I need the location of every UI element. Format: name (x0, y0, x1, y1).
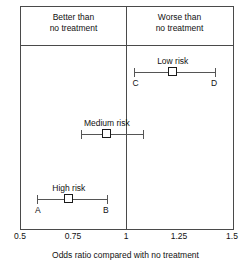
ci-endpoint-label-b: B (103, 205, 109, 215)
band-label-worse: Worse than no treatment (127, 12, 232, 34)
ci-line-medium-risk (81, 134, 142, 135)
x-tick-label-3: 1.25 (159, 231, 199, 241)
band-better-line2: no treatment (21, 23, 126, 34)
header-separator (20, 45, 234, 46)
study-row-medium-risk: Medium risk (0, 118, 251, 152)
ci-cap-medium-right (143, 130, 144, 139)
x-tick-label-2: 1 (106, 231, 146, 241)
ci-cap-high-right (107, 195, 108, 204)
ci-cap-low-left (134, 68, 135, 77)
ci-endpoint-label-a: A (35, 205, 41, 215)
x-tick-label-0: 0.5 (0, 231, 40, 241)
band-worse-line1: Worse than (127, 12, 232, 23)
ci-endpoint-label-c: C (132, 78, 138, 88)
x-axis-title: Odds ratio compared with no treatment (0, 250, 251, 260)
x-tick-label-1: 0.75 (53, 231, 93, 241)
ci-cap-medium-left (81, 130, 82, 139)
ci-cap-high-left (37, 195, 38, 204)
band-worse-line2: no treatment (127, 23, 232, 34)
point-marker-medium-risk (102, 129, 111, 138)
study-row-low-risk: Low risk C D (0, 56, 251, 90)
x-tick-label-4: 1.5 (212, 231, 251, 241)
band-label-better: Better than no treatment (21, 12, 126, 34)
study-label-medium-risk: Medium risk (84, 118, 130, 128)
ci-cap-low-right (215, 68, 216, 77)
band-better-line1: Better than (21, 12, 126, 23)
point-marker-high-risk (64, 194, 73, 203)
study-row-high-risk: High risk A B (0, 183, 251, 217)
forest-plot-figure: Better than no treatment Worse than no t… (0, 0, 251, 269)
study-label-high-risk: High risk (52, 183, 85, 193)
study-label-low-risk: Low risk (157, 56, 188, 66)
point-marker-low-risk (168, 67, 177, 76)
ci-endpoint-label-d: D (211, 78, 217, 88)
